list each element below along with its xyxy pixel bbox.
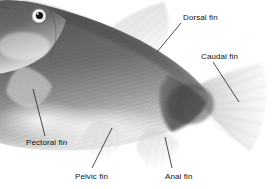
label-pectoral-fin: Pectoral fin — [26, 138, 67, 147]
label-anal-fin: Anal fin — [165, 172, 192, 181]
label-caudal-fin: Caudal fin — [201, 52, 238, 61]
fish-anatomy-figure: Dorsal fin Caudal fin Pectoral fin Pelvi… — [0, 0, 273, 189]
fish-photograph — [0, 0, 273, 189]
fish-eye — [31, 8, 48, 25]
label-dorsal-fin: Dorsal fin — [183, 13, 218, 22]
label-pelvic-fin: Pelvic fin — [75, 172, 108, 181]
